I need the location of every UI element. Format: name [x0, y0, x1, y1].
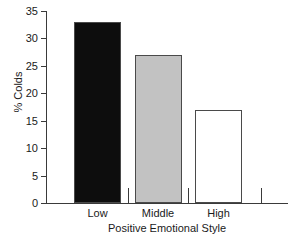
y-tick-label: 30 — [10, 33, 38, 44]
y-tick-mark — [41, 203, 46, 204]
bar-chart: 05101520253035 LowMiddleHigh % Colds Pos… — [0, 0, 306, 241]
y-tick-mark — [41, 176, 46, 177]
y-tick-label: 5 — [10, 171, 38, 182]
y-axis-title: % Colds — [12, 52, 24, 132]
y-tick-mark — [41, 66, 46, 67]
y-tick-label: 10 — [10, 143, 38, 154]
y-tick-mark — [41, 93, 46, 94]
y-tick-label: 35 — [10, 6, 38, 17]
y-tick-mark — [41, 11, 46, 12]
x-tick-mark — [188, 188, 189, 203]
x-axis-line — [46, 203, 288, 204]
bar-high — [195, 110, 242, 203]
x-tick-label: High — [179, 207, 259, 219]
bar-middle — [135, 55, 182, 203]
bar-low — [74, 22, 121, 203]
y-axis-line — [46, 11, 47, 203]
y-tick-label: 0 — [10, 198, 38, 209]
y-tick-mark — [41, 38, 46, 39]
x-tick-mark — [261, 188, 262, 203]
x-axis-title: Positive Emotional Style — [46, 222, 288, 234]
y-tick-mark — [41, 148, 46, 149]
x-tick-mark — [128, 188, 129, 203]
y-tick-mark — [41, 121, 46, 122]
